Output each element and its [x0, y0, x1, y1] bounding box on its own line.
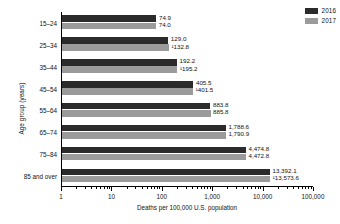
bar-2016-2[interactable] — [62, 59, 177, 66]
value-label-2017-4: 885.8 — [211, 109, 229, 116]
x-tick-major-5 — [313, 187, 314, 191]
category-label-3: 45–54 — [39, 85, 57, 92]
chart-figure: 2016 2017 Age group (years) 15–2474.974.… — [0, 0, 340, 224]
x-tick-minor — [76, 187, 77, 189]
x-tick-label-0: 1 — [59, 193, 63, 201]
x-tick-minor — [298, 187, 299, 189]
x-tick-minor — [247, 187, 248, 189]
x-tick-minor — [177, 187, 178, 189]
bar-row: 85 and over13,392.1¹13,573.6 — [61, 165, 313, 187]
bar-row: 35–44192.2¹195.2 — [61, 56, 313, 78]
x-tick-label-5: 100,000 — [302, 193, 325, 201]
bar-2016-3[interactable] — [62, 81, 193, 88]
bar-row: 75–844,474.84,472.8 — [61, 143, 313, 165]
bar-2017-0[interactable] — [62, 23, 156, 30]
bar-2016-7[interactable] — [62, 169, 270, 176]
bar-row: 15–2474.974.0 — [61, 12, 313, 34]
value-label-2017-5: 1,790.9 — [226, 131, 249, 138]
category-label-7: 85 and over — [24, 173, 57, 180]
x-tick-minor — [308, 187, 309, 189]
x-tick-major-4 — [263, 187, 264, 191]
x-tick-minor — [255, 187, 256, 189]
category-label-2: 35–44 — [39, 63, 57, 70]
bar-2017-4[interactable] — [62, 110, 211, 117]
value-label-2017-2: ¹195.2 — [177, 66, 197, 73]
category-label-1: 25–34 — [39, 41, 57, 48]
x-tick-label-2: 100 — [157, 193, 168, 201]
x-tick-minor — [201, 187, 202, 189]
category-label-6: 75–84 — [39, 151, 57, 158]
category-label-5: 65–74 — [39, 129, 57, 136]
bar-2017-3[interactable] — [62, 88, 193, 95]
x-tick-major-0 — [61, 187, 62, 191]
x-tick-minor — [107, 187, 108, 189]
bar-2017-6[interactable] — [62, 154, 246, 161]
category-label-4: 55–64 — [39, 107, 57, 114]
x-tick-minor — [287, 187, 288, 189]
bar-2017-2[interactable] — [62, 66, 177, 73]
x-tick-minor — [204, 187, 205, 189]
x-tick-minor — [243, 187, 244, 189]
bar-row: 55–64883.8885.8 — [61, 100, 313, 122]
x-tick-major-2 — [162, 187, 163, 191]
bar-2016-1[interactable] — [62, 37, 168, 44]
x-tick-minor — [96, 187, 97, 189]
bar-2017-5[interactable] — [62, 132, 226, 139]
x-tick-minor — [251, 187, 252, 189]
x-tick-minor — [236, 187, 237, 189]
bar-2016-5[interactable] — [62, 125, 226, 132]
x-tick-minor — [207, 187, 208, 189]
x-tick-minor — [104, 187, 105, 189]
bar-row: 45–54405.5¹401.5 — [61, 78, 313, 100]
value-label-2017-7: ¹13,573.6 — [270, 175, 299, 182]
x-tick-major-1 — [111, 187, 112, 191]
x-tick-minor — [91, 187, 92, 189]
bar-2016-0[interactable] — [62, 15, 156, 22]
y-axis-title: Age group (years) — [18, 54, 25, 164]
x-tick-minor — [147, 187, 148, 189]
x-tick-minor — [302, 187, 303, 189]
value-label-2017-1: ¹132.8 — [169, 44, 189, 51]
x-axis-title: Deaths per 100,000 U.S. population — [61, 204, 313, 211]
x-tick-minor — [135, 187, 136, 189]
value-label-2017-0: 74.0 — [156, 22, 171, 29]
bar-row: 25–34129.0¹132.8 — [61, 34, 313, 56]
x-tick-minor — [293, 187, 294, 189]
x-tick-minor — [151, 187, 152, 189]
x-tick-minor — [157, 187, 158, 189]
x-tick-minor — [192, 187, 193, 189]
bar-2016-4[interactable] — [62, 103, 210, 110]
legend-label-2016: 2016 — [322, 7, 336, 14]
category-label-0: 15–24 — [39, 19, 57, 26]
x-tick-label-3: 1,000 — [204, 193, 220, 201]
x-tick-minor — [109, 187, 110, 189]
x-tick-minor — [258, 187, 259, 189]
x-tick-label-1: 10 — [108, 193, 115, 201]
x-tick-minor — [100, 187, 101, 189]
bar-2017-7[interactable] — [62, 176, 270, 183]
bar-row: 65–741,788.61,790.9 — [61, 121, 313, 143]
x-tick-minor — [305, 187, 306, 189]
plot-area: 15–2474.974.025–34129.0¹132.835–44192.2¹… — [61, 12, 313, 187]
x-tick-minor — [154, 187, 155, 189]
x-tick-label-4: 10,000 — [253, 193, 272, 201]
x-tick-minor — [142, 187, 143, 189]
x-tick-major-3 — [212, 187, 213, 191]
x-tick-minor — [127, 187, 128, 189]
x-tick-minor — [311, 187, 312, 189]
x-tick-minor — [278, 187, 279, 189]
x-tick-minor — [186, 187, 187, 189]
value-label-2017-6: 4,472.8 — [246, 153, 269, 160]
value-label-2017-3: ¹401.5 — [193, 87, 213, 94]
x-tick-minor — [260, 187, 261, 189]
bar-2016-6[interactable] — [62, 147, 246, 154]
x-tick-minor — [85, 187, 86, 189]
x-tick-minor — [210, 187, 211, 189]
bar-2017-1[interactable] — [62, 44, 169, 51]
x-tick-minor — [159, 187, 160, 189]
bar-rows: 15–2474.974.025–34129.0¹132.835–44192.2¹… — [61, 12, 313, 187]
x-tick-minor — [227, 187, 228, 189]
legend-label-2017: 2017 — [322, 17, 336, 24]
x-tick-minor — [197, 187, 198, 189]
